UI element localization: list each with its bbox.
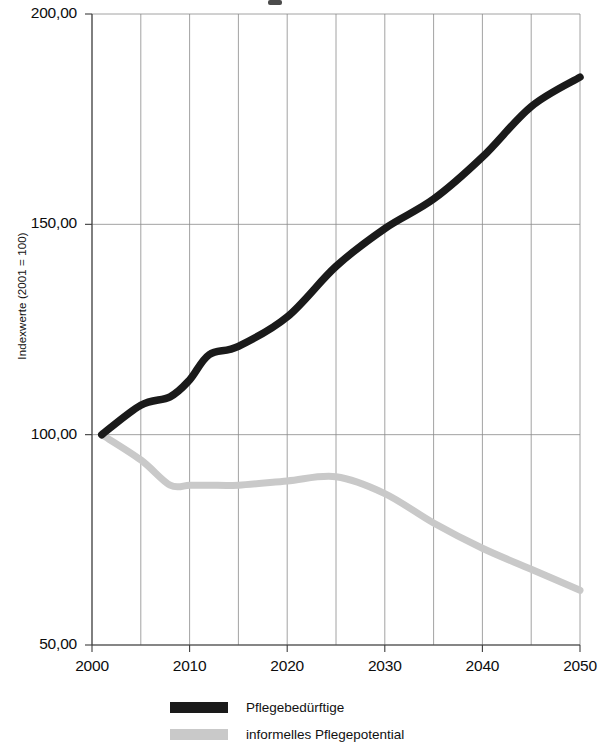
chart-container: Indexwerte (2001 = 100) 50,00100,00150,0… bbox=[0, 0, 607, 750]
plot-area bbox=[0, 0, 607, 750]
x-tick-label: 2040 bbox=[447, 657, 517, 675]
series-line-informelles-pflegepotential bbox=[102, 435, 580, 591]
gridlines bbox=[92, 14, 580, 645]
legend-label-informelles-pflegepotential: informelles Pflegepotential bbox=[246, 727, 404, 742]
y-tick-label: 100,00 bbox=[7, 425, 77, 443]
x-tick-label: 2020 bbox=[252, 657, 322, 675]
x-tick-label: 2000 bbox=[57, 657, 127, 675]
legend-item-informelles-pflegepotential: informelles Pflegepotential bbox=[170, 721, 600, 748]
chart-legend: Pflegebedürftige informelles Pflegepoten… bbox=[170, 694, 600, 748]
legend-swatch-icon-gray bbox=[170, 729, 228, 740]
data-series-layer bbox=[102, 77, 580, 590]
x-tick-label: 2030 bbox=[350, 657, 420, 675]
y-tick-label: 150,00 bbox=[7, 214, 77, 232]
legend-label-pflegebeduerftige: Pflegebedürftige bbox=[246, 700, 344, 715]
x-tick-label: 2010 bbox=[155, 657, 225, 675]
x-tick-label: 2050 bbox=[545, 657, 607, 675]
legend-swatch-icon-black bbox=[170, 702, 228, 713]
y-tick-label: 200,00 bbox=[7, 4, 77, 22]
legend-item-pflegebeduerftige: Pflegebedürftige bbox=[170, 694, 600, 721]
y-tick-label: 50,00 bbox=[7, 635, 77, 653]
series-line-pflegebeduerftige bbox=[102, 77, 580, 435]
